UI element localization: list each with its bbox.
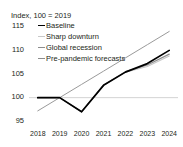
x-tick-label: 2024 <box>157 130 181 138</box>
y-tick-label: 110 <box>2 46 24 54</box>
legend-item-label: Pre-pandemic forecasts <box>46 54 125 63</box>
legend-line-swatch-icon <box>38 25 45 26</box>
x-tick-label: 2018 <box>26 130 50 138</box>
chart-container: Index, 100 = 2019 11511010510095 2018201… <box>0 0 183 147</box>
x-tick-label: 2020 <box>70 130 94 138</box>
legend-item-label: Sharp downturn <box>46 32 99 41</box>
x-tick-label: 2019 <box>48 130 72 138</box>
legend-line-swatch-icon <box>38 58 45 59</box>
legend-line-swatch-icon <box>38 36 45 37</box>
x-tick-label: 2022 <box>113 130 137 138</box>
x-tick-label: 2021 <box>92 130 116 138</box>
legend-item-label: Baseline <box>46 21 75 30</box>
legend-item[interactable]: Sharp downturn <box>38 32 99 41</box>
y-tick-label: 115 <box>2 22 24 30</box>
y-tick-label: 105 <box>2 70 24 78</box>
legend-item[interactable]: Global recession <box>38 43 102 52</box>
legend-line-swatch-icon <box>38 47 45 48</box>
y-tick-label: 100 <box>2 93 24 101</box>
legend-item[interactable]: Baseline <box>38 21 75 30</box>
legend-item-label: Global recession <box>46 43 102 52</box>
y-tick-label: 95 <box>2 117 24 125</box>
x-tick-label: 2023 <box>135 130 159 138</box>
legend-item[interactable]: Pre-pandemic forecasts <box>38 54 125 63</box>
plot-area <box>0 0 183 147</box>
